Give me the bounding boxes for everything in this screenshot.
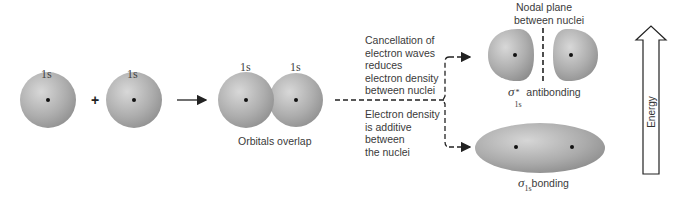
additive-text: Electron density is additive between the… [365, 108, 440, 158]
antibonding-caption: σ*1s antibonding [508, 86, 581, 99]
orbital-diagram: + Energy [0, 0, 679, 198]
orbital-1-label: 1s [41, 68, 52, 81]
bonding-orbital [475, 123, 605, 173]
nodal-plane-label: Nodal plane between nuclei [514, 1, 574, 26]
plus-sign: + [91, 92, 99, 108]
energy-label: Energy [646, 96, 657, 128]
orbitals-overlap-caption: Orbitals overlap [238, 135, 312, 148]
orbital-2-label: 1s [127, 68, 138, 81]
overlap-label-2: 1s [290, 61, 301, 74]
antibonding-orbital [488, 28, 598, 84]
cancellation-text: Cancellation of electron waves reduces e… [365, 34, 439, 97]
overlap-label-1: 1s [240, 61, 251, 74]
bonding-caption: σ1sbonding [518, 177, 569, 192]
overlapping-orbitals [218, 72, 323, 128]
